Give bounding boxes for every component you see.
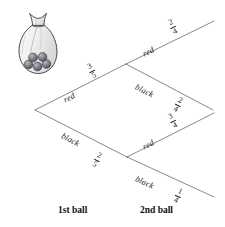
ball-4 [29,53,38,62]
ball-2 [33,62,42,71]
branch-line-first-black [35,110,127,157]
bag-of-balls-illustration [14,8,62,80]
probability-tree-diagram: red 3 5 black 2 5 red 2 4 black 2 4 red … [0,0,225,227]
stage-caption-second-ball: 2nd ball [140,205,173,215]
ball-5 [38,53,47,62]
stage-caption-first-ball: 1st ball [58,205,87,215]
bag-neck-shape [30,13,47,25]
bag-of-balls-icon [14,8,62,80]
